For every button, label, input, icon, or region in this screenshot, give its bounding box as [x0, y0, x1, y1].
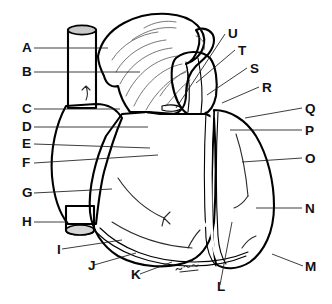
left-ventricle	[212, 110, 274, 268]
leader-M	[272, 254, 303, 266]
label-R[interactable]: R	[262, 80, 272, 95]
label-C[interactable]: C	[22, 101, 32, 116]
leader-S	[207, 68, 247, 95]
label-M[interactable]: M	[305, 259, 316, 274]
superior-vena-cava	[68, 25, 96, 108]
leader-R	[222, 87, 259, 103]
leader-O	[242, 158, 302, 162]
label-O[interactable]: O	[305, 151, 316, 166]
label-P[interactable]: P	[305, 123, 314, 138]
leader-L	[220, 222, 232, 285]
auricle-striations	[112, 21, 205, 110]
label-J[interactable]: J	[88, 258, 96, 273]
label-S[interactable]: S	[250, 61, 259, 76]
label-G[interactable]: G	[22, 185, 33, 200]
right-coronary-vessels	[122, 114, 206, 244]
label-H[interactable]: H	[22, 214, 32, 229]
right-auricle-and-aortic-arch	[98, 14, 214, 114]
cardiac-veins	[82, 86, 256, 248]
diaphragmatic-border	[96, 228, 248, 266]
leader-I	[62, 240, 122, 249]
heart-diagram-figure: A B C D E F G H I J K L M N O P Q R S T …	[0, 0, 332, 304]
label-U[interactable]: U	[228, 26, 238, 41]
label-B[interactable]: B	[22, 64, 32, 79]
leader-E	[34, 144, 150, 148]
label-F[interactable]: F	[22, 155, 30, 170]
label-L[interactable]: L	[217, 279, 225, 294]
leader-Q	[245, 108, 302, 118]
label-D[interactable]: D	[22, 119, 32, 134]
label-I[interactable]: I	[57, 242, 61, 257]
leader-U	[176, 34, 225, 108]
label-K[interactable]: K	[131, 267, 141, 282]
label-E[interactable]: E	[22, 136, 31, 151]
label-Q[interactable]: Q	[305, 101, 316, 116]
label-A[interactable]: A	[22, 40, 32, 55]
label-N[interactable]: N	[305, 201, 315, 216]
heart-diagram-canvas: A B C D E F G H I J K L M N O P Q R S T …	[0, 0, 332, 304]
label-T[interactable]: T	[238, 43, 247, 58]
leader-K	[140, 262, 172, 274]
